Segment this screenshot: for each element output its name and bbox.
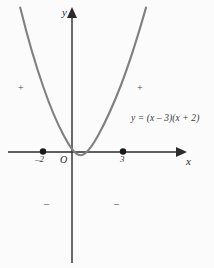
sign-minus-right: – <box>114 199 119 209</box>
sign-plus-left: + <box>18 83 24 93</box>
y-axis <box>67 7 77 263</box>
sign-minus-left: – <box>44 199 49 209</box>
y-axis-label: y <box>62 7 67 18</box>
x-tick-label-negative-two: –2 <box>35 155 44 164</box>
plot-canvas <box>0 0 214 268</box>
sign-plus-right: + <box>137 83 143 93</box>
x-axis-label: x <box>186 156 191 167</box>
parabola-curve <box>20 8 146 156</box>
x-tick-label-three: 3 <box>120 155 125 164</box>
equation-annotation: y = (x – 3)(x + 2) <box>131 114 199 124</box>
parabola-figure: y x O –2 3 + + – – y = (x – 3)(x + 2) <box>0 0 214 268</box>
y-axis-arrowhead <box>67 7 77 18</box>
origin-label: O <box>60 155 67 165</box>
